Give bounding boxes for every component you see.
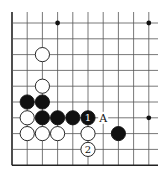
- black-stone: [51, 111, 65, 125]
- black-stone: [35, 95, 49, 109]
- star-point-icon: [146, 21, 151, 26]
- white-stone: [35, 48, 49, 62]
- white-stone: [20, 111, 34, 125]
- black-stone: [20, 95, 34, 109]
- black-stone: [66, 111, 80, 125]
- board-grid: [12, 12, 158, 165]
- point-label-a: A: [98, 112, 108, 125]
- white-stone: [81, 127, 95, 141]
- star-point-icon: [146, 115, 151, 120]
- black-stone: [35, 111, 49, 125]
- move-number-label: 2: [85, 144, 91, 155]
- white-stone: [35, 127, 49, 141]
- white-stone: [51, 127, 65, 141]
- go-board: 12 A: [0, 0, 167, 176]
- point-labels: A: [98, 112, 108, 125]
- white-stone: [20, 127, 34, 141]
- move-number-label: 1: [85, 112, 91, 123]
- black-stone: [111, 127, 125, 141]
- white-stone: [35, 79, 49, 93]
- star-point-icon: [55, 21, 60, 26]
